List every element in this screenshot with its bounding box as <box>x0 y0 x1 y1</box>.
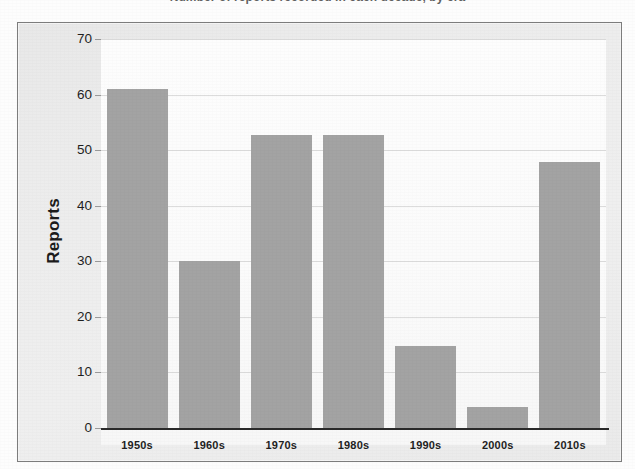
x-tick-label-1960s: 1960s <box>173 439 245 451</box>
chart-title-clipped: Number of reports recorded in each decad… <box>170 0 466 4</box>
y-tick-label: 70 <box>58 32 92 46</box>
bar-1950s[interactable] <box>107 89 168 428</box>
y-axis-title: Reports <box>44 171 64 291</box>
scanned-page: Number of reports recorded in each decad… <box>0 0 635 469</box>
y-tick-label: 60 <box>58 88 92 102</box>
bars-group <box>101 39 606 428</box>
x-axis-tick-labels: 1950s1960s1970s1980s1990s2000s2010s <box>101 433 606 457</box>
x-tick-label-1970s: 1970s <box>245 439 317 451</box>
clipped-title-strip: Number of reports recorded in each decad… <box>0 0 635 11</box>
bar-2000s[interactable] <box>467 407 528 428</box>
bar-1970s[interactable] <box>251 135 312 428</box>
x-axis-line <box>101 428 609 430</box>
x-tick-label-2000s: 2000s <box>462 439 534 451</box>
x-tick-label-1990s: 1990s <box>390 439 462 451</box>
x-tick-label-2010s: 2010s <box>534 439 606 451</box>
x-tick-label-1980s: 1980s <box>317 439 389 451</box>
y-tick-label: 20 <box>58 310 92 324</box>
bar-2010s[interactable] <box>539 162 600 428</box>
chart-frame: 706050403020100 Reports 1950s1960s1970s1… <box>17 22 622 462</box>
y-tick-label: 10 <box>58 366 92 380</box>
y-tick-label: 0 <box>58 421 92 435</box>
bar-1980s[interactable] <box>323 135 384 428</box>
bar-1960s[interactable] <box>179 261 240 428</box>
x-tick-label-1950s: 1950s <box>101 439 173 451</box>
bar-1990s[interactable] <box>395 346 456 428</box>
y-tick-label: 50 <box>58 143 92 157</box>
